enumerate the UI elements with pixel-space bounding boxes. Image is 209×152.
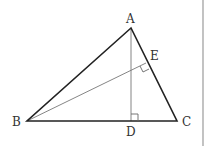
altitude-BE	[27, 63, 146, 121]
label-D: D	[126, 125, 136, 139]
label-C: C	[182, 115, 191, 129]
label-B: B	[12, 115, 21, 129]
right-angle-mark-D	[131, 114, 138, 121]
right-angle-mark-E	[140, 66, 149, 72]
triangle-diagram: A B C D E	[0, 0, 209, 152]
label-A: A	[125, 12, 135, 26]
label-E: E	[150, 49, 159, 63]
triangle-ABC	[27, 28, 177, 121]
